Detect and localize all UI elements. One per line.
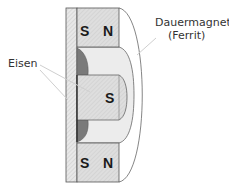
center-iron-block <box>77 75 127 120</box>
bottom-magnet-s-pole: S <box>80 155 89 171</box>
eisen-label: Eisen <box>8 57 38 70</box>
bottom-magnet-n-pole: N <box>103 155 113 171</box>
top-magnet-s-pole: S <box>80 23 89 39</box>
center-s-pole: S <box>105 90 114 106</box>
ferrite-leader-line <box>137 38 156 55</box>
ferrit-label: (Ferrit) <box>168 29 205 42</box>
dauermagnet-label: Dauermagnet <box>155 16 229 29</box>
top-magnet-n-pole: N <box>103 23 113 39</box>
iron-plate <box>66 8 77 182</box>
magnet-diagram: S N S S N Dauermagnet (Ferrit) Eisen <box>0 0 229 188</box>
iron-leader-line-2 <box>40 70 68 100</box>
diagram-svg: S N S S N Dauermagnet (Ferrit) Eisen <box>0 0 229 188</box>
